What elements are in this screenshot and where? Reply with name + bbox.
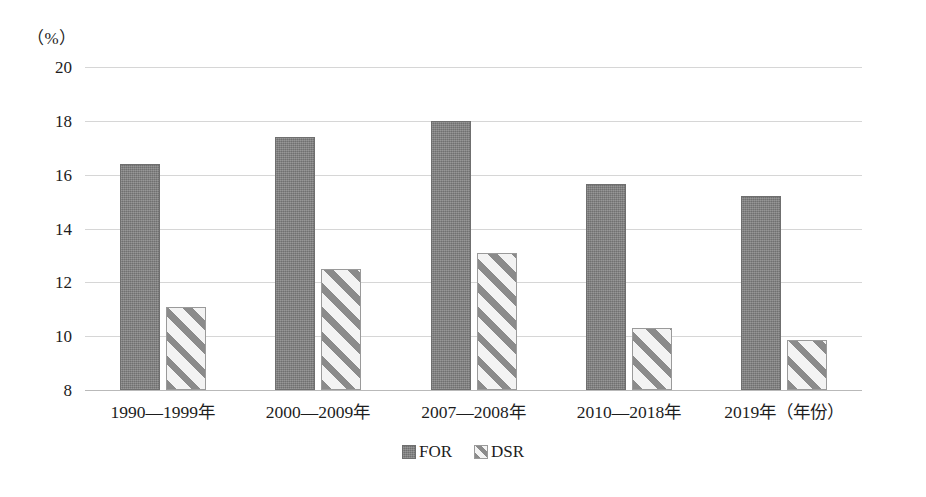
bar-for-1[interactable]	[275, 137, 315, 390]
bar-dsr-1[interactable]	[321, 269, 361, 390]
bar-for-2[interactable]	[431, 121, 471, 390]
y-tick-label-12: 12	[55, 274, 72, 291]
legend-label-dsr: DSR	[491, 443, 524, 460]
bar-dsr-0[interactable]	[166, 307, 206, 390]
legend-item-dsr[interactable]: DSR	[474, 443, 524, 460]
y-axis-unit-label: （%）	[27, 24, 77, 49]
legend-swatch-for-icon	[402, 445, 416, 459]
y-tick-label-8: 8	[64, 382, 73, 399]
chart-legend: FOR DSR	[0, 443, 926, 460]
bar-dsr-2[interactable]	[477, 253, 517, 390]
legend-swatch-dsr-icon	[474, 445, 488, 459]
y-tick-label-20: 20	[55, 59, 72, 76]
bar-for-0[interactable]	[120, 164, 160, 390]
gridline-16: 16	[85, 175, 862, 176]
x-category-label-0: 1990—1999年	[110, 398, 215, 423]
bar-for-3[interactable]	[586, 184, 626, 390]
bar-dsr-3[interactable]	[632, 328, 672, 390]
y-tick-label-18: 18	[55, 112, 72, 129]
bar-dsr-4[interactable]	[787, 340, 827, 390]
x-category-label-1: 2000—2009年	[266, 398, 371, 423]
gridline-20: 20	[85, 67, 862, 68]
y-tick-label-10: 10	[55, 328, 72, 345]
plot-area: 8101214161820	[85, 67, 862, 390]
y-tick-label-16: 16	[55, 166, 72, 183]
legend-label-for: FOR	[419, 443, 452, 460]
gridline-8: 8	[85, 390, 862, 391]
gridline-18: 18	[85, 121, 862, 122]
bar-for-4[interactable]	[741, 196, 781, 390]
bar-chart-figure: （%） 8101214161820 1990—1999年2000—2009年20…	[0, 0, 926, 497]
y-tick-label-14: 14	[55, 220, 72, 237]
x-category-label-3: 2010—2018年	[577, 398, 682, 423]
x-category-label-2: 2007—2008年	[421, 398, 526, 423]
x-category-label-4: 2019年（年份）	[724, 398, 844, 423]
legend-item-for[interactable]: FOR	[402, 443, 452, 460]
